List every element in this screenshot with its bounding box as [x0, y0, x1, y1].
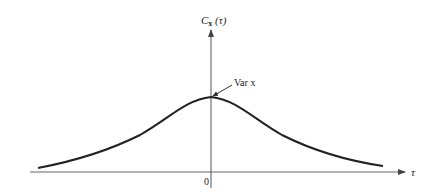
origin-label: 0: [204, 176, 209, 187]
y-axis-label: Cx (τ): [201, 14, 227, 28]
peak-annotation-arrow: [213, 85, 232, 96]
x-axis-label: τ: [411, 166, 416, 178]
autocovariance-diagram: Cx (τ) Var x 0 τ: [0, 0, 440, 193]
peak-annotation-label: Var x: [234, 77, 255, 88]
